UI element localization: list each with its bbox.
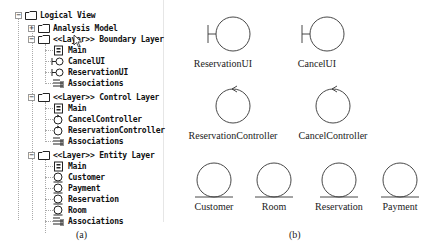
entity-circle (322, 163, 356, 197)
control-circle (216, 89, 250, 123)
caption-b: (b) (289, 229, 301, 240)
entity-circle (257, 163, 291, 197)
entity-label: Payment (345, 201, 422, 212)
control-label: ReservationController (178, 130, 288, 141)
control-label: CancelController (278, 130, 388, 141)
entity-circle (383, 163, 417, 197)
boundary-circle (310, 17, 344, 51)
boundary-circle (216, 17, 250, 51)
boundary-label: CancelUI (262, 58, 372, 69)
control-circle (316, 89, 350, 123)
entity-circle (197, 163, 231, 197)
